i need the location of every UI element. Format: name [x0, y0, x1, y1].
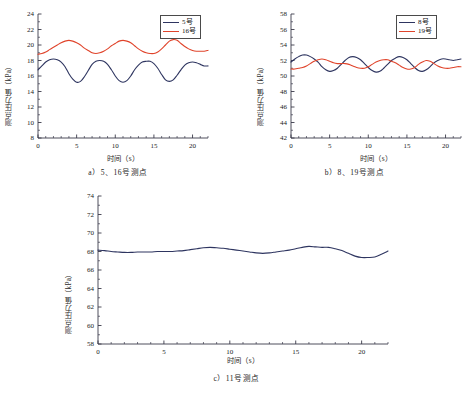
svg-text:56: 56 [280, 26, 288, 34]
svg-text:72: 72 [87, 211, 95, 219]
svg-text:64: 64 [87, 285, 95, 293]
legend-label: 19号 [418, 27, 432, 36]
svg-text:10: 10 [112, 142, 120, 150]
svg-text:12: 12 [27, 103, 35, 111]
svg-text:74: 74 [87, 192, 95, 200]
svg-text:50: 50 [280, 72, 288, 80]
svg-text:15: 15 [403, 142, 411, 150]
svg-text:48: 48 [280, 88, 288, 96]
legend-color-swatch [399, 22, 415, 23]
chart-b-legend: 8号19号 [396, 15, 437, 39]
series-line-16号 [38, 40, 208, 55]
chart-c-x-axis-label: 时间（s） [98, 354, 388, 365]
svg-text:5: 5 [75, 142, 79, 150]
svg-text:10: 10 [365, 142, 373, 150]
chart-a-y-axis-label: 测点压力值（kPa） [4, 18, 14, 126]
svg-text:60: 60 [87, 322, 95, 330]
chart-b-x-axis-label: 时间（s） [291, 152, 461, 163]
chart-c-caption: c）11号测点 [60, 372, 413, 383]
legend-label: 8号 [418, 18, 429, 27]
svg-text:22: 22 [27, 26, 35, 34]
svg-text:16: 16 [27, 72, 35, 80]
series-line-19号 [291, 59, 461, 69]
svg-text:18: 18 [27, 57, 35, 65]
series-line-8号 [291, 55, 461, 72]
svg-text:0: 0 [36, 142, 40, 150]
series-line-11号 [98, 246, 388, 257]
svg-text:46: 46 [280, 103, 288, 111]
legend-item: 8号 [399, 18, 432, 27]
svg-text:66: 66 [87, 266, 95, 274]
chart-a-caption: a）5、16号测点 [0, 166, 236, 177]
chart-b-plot-area: 42444648505254565805101520 [291, 14, 465, 154]
svg-text:14: 14 [27, 88, 35, 96]
svg-text:52: 52 [280, 57, 288, 65]
chart-b-y-axis-label: 测点压力值（kPa） [256, 18, 266, 126]
chart-a-x-axis-label: 时间（s） [38, 152, 208, 163]
legend-item: 5号 [163, 18, 196, 27]
chart-b-caption: b）8、19号测点 [236, 166, 473, 177]
legend-item: 19号 [399, 27, 432, 36]
svg-text:15: 15 [150, 142, 158, 150]
chart-a-container: 测点压力值（kPa） 8101214161820222405101520 时间（… [0, 0, 236, 180]
svg-text:44: 44 [280, 119, 288, 127]
svg-text:20: 20 [442, 142, 450, 150]
chart-b-container: 测点压力值（kPa） 42444648505254565805101520 时间… [236, 0, 473, 180]
svg-text:58: 58 [280, 10, 288, 18]
svg-text:42: 42 [280, 134, 288, 142]
svg-text:10: 10 [27, 119, 35, 127]
chart-a-legend: 5号16号 [160, 15, 201, 39]
chart-c-y-axis-label: 测点压力值（kPa） [64, 204, 74, 334]
chart-c-plot-area: 58606264666870727405101520 [98, 196, 392, 360]
svg-text:8: 8 [31, 134, 35, 142]
legend-color-swatch [399, 31, 415, 32]
legend-item: 16号 [163, 27, 196, 36]
svg-text:54: 54 [280, 41, 288, 49]
svg-text:58: 58 [87, 340, 95, 348]
svg-text:20: 20 [189, 142, 197, 150]
svg-text:5: 5 [328, 142, 332, 150]
legend-label: 16号 [182, 27, 196, 36]
legend-label: 5号 [182, 18, 193, 27]
chart-c-container: 测点压力值（kPa） 58606264666870727405101520 时间… [60, 182, 413, 402]
svg-text:24: 24 [27, 10, 35, 18]
svg-text:0: 0 [289, 142, 293, 150]
svg-text:20: 20 [27, 41, 35, 49]
legend-color-swatch [163, 22, 179, 23]
svg-text:62: 62 [87, 303, 95, 311]
legend-color-swatch [163, 31, 179, 32]
svg-text:70: 70 [87, 229, 95, 237]
series-line-5号 [38, 59, 208, 82]
svg-text:68: 68 [87, 248, 95, 256]
